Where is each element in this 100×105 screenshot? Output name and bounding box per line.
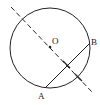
tick-mark [75,74,82,81]
label-a: A [38,91,45,101]
center-point [49,46,52,49]
label-o: O [52,36,59,46]
geometry-diagram: O A B [0,0,100,105]
label-b: B [91,37,97,47]
